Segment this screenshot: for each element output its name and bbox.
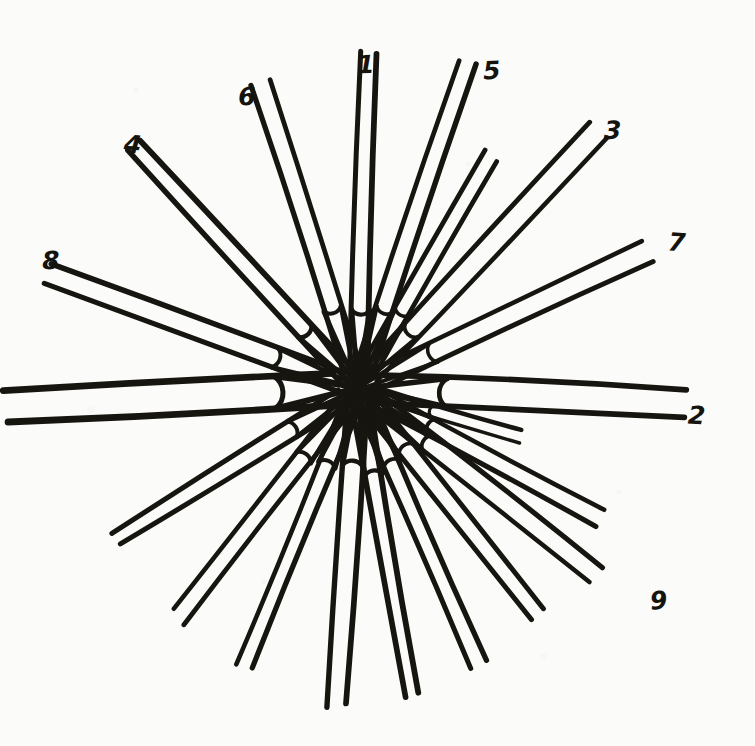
petal-arc-3 (404, 325, 417, 337)
spoke-line-8 (51, 264, 344, 372)
spoke-label-4: 4 (123, 131, 143, 157)
spoke-line-8 (44, 283, 337, 391)
petal-arc-16 (274, 376, 283, 408)
spoke-label-7: 7 (667, 229, 686, 255)
spoke-label-2: 2 (687, 403, 706, 429)
petal-arc-5 (439, 379, 447, 407)
starburst-drawing (0, 0, 755, 746)
spoke-label-5: 5 (482, 58, 501, 84)
spoke-lines (3, 51, 686, 707)
spoke-label-1: 1 (357, 52, 375, 77)
spoke-label-6: 6 (238, 84, 256, 109)
center-dot (354, 384, 362, 392)
spoke-label-3: 3 (604, 118, 622, 143)
spoke-label-9: 9 (649, 587, 669, 613)
figure-root: 123456789 (0, 0, 755, 746)
spoke-label-8: 8 (42, 248, 60, 273)
